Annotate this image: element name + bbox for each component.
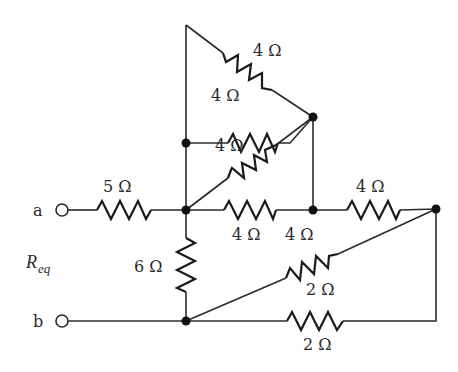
resistor-R5-4ohm	[224, 201, 276, 219]
label-R7: 6 Ω	[134, 257, 163, 276]
label-R6: 4 Ω	[356, 177, 385, 196]
req-label: R eq	[25, 252, 51, 276]
wire-top-diagonal-end	[272, 90, 313, 117]
label-R1: 5 Ω	[103, 177, 132, 196]
req-subscript: eq	[38, 261, 51, 276]
resistor-R7-6ohm	[177, 238, 195, 292]
resistor-R1-5ohm	[97, 201, 151, 219]
wire-C-to-R4	[186, 178, 228, 210]
node-B	[309, 113, 318, 122]
terminal-a-label: a	[33, 201, 43, 220]
wire-R6-to-E	[400, 209, 436, 210]
wire-E-down	[343, 209, 436, 321]
node-E	[432, 205, 441, 214]
node-D	[309, 206, 318, 215]
wires	[68, 25, 436, 321]
node-F	[182, 317, 191, 326]
label-R9: 2 Ω	[303, 335, 332, 354]
wire-R8-to-E	[338, 209, 436, 254]
label-D-extra: 4 Ω	[285, 225, 314, 244]
label-R8: 2 Ω	[306, 280, 335, 299]
label-R5: 4 Ω	[232, 225, 261, 244]
label-R3: 4 Ω	[211, 86, 240, 105]
resistor-labels: 5 Ω 4 Ω 4 Ω 4 Ω 4 Ω 4 Ω 4 Ω 6 Ω 2 Ω 2 Ω	[103, 41, 385, 354]
wire-top-diagonal-start	[186, 25, 223, 53]
resistors	[97, 53, 400, 330]
circuit-diagram: a b R eq 5 Ω 4 Ω 4 Ω 4 Ω 4 Ω 4 Ω 4 Ω 6 Ω…	[0, 0, 458, 372]
label-R4: 4 Ω	[215, 136, 244, 155]
resistor-R9-2ohm	[287, 312, 343, 330]
wire-F-to-R8	[186, 278, 286, 321]
resistor-R8-2ohm	[286, 254, 338, 280]
node-C	[182, 206, 191, 215]
label-R2: 4 Ω	[253, 41, 282, 60]
terminal-a	[56, 204, 68, 216]
wire-R4-to-B	[276, 117, 313, 145]
terminal-b-label: b	[33, 312, 43, 331]
resistor-R6-4ohm	[347, 201, 400, 219]
req-symbol: R	[25, 252, 37, 272]
node-A	[182, 139, 191, 148]
terminal-b	[56, 315, 68, 327]
